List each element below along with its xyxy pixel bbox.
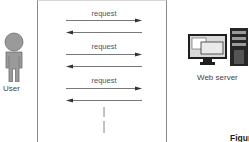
figure-caption: Figure 5.2(	[230, 133, 249, 142]
message-label-3: request	[66, 76, 142, 85]
web-server-icon	[188, 28, 248, 68]
request-arrow-1	[66, 17, 142, 24]
request-arrow-3	[66, 85, 142, 92]
message-label-2: request	[66, 42, 142, 51]
user-icon	[2, 32, 26, 82]
web-server-label: Web server	[197, 73, 238, 82]
continuation-dashes	[102, 105, 106, 135]
response-arrow-1	[66, 29, 142, 36]
request-arrow-2	[66, 51, 142, 58]
response-arrow-2	[66, 63, 142, 70]
user-label: User	[3, 84, 20, 93]
response-arrow-3	[66, 97, 142, 104]
